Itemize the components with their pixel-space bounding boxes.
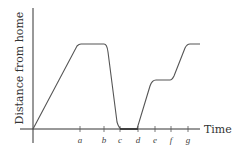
y-axis-label: Distance from home [13, 12, 26, 125]
distance-curve [33, 44, 200, 129]
tick-label-d: d [136, 135, 141, 145]
tick-label-f: f [170, 135, 174, 145]
distance-time-graph: a b c d e f g Time Distance from home [0, 0, 247, 152]
tick-label-a: a [78, 135, 83, 145]
tick-label-c: c [118, 135, 122, 145]
tick-label-b: b [102, 135, 107, 145]
x-axis-label: Time [204, 123, 232, 136]
tick-label-e: e [153, 135, 157, 145]
tick-label-g: g [186, 135, 191, 145]
